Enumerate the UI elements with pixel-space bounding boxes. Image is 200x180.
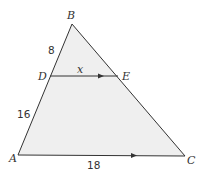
segment-label-bd: 8: [48, 44, 55, 56]
triangle-abc-fill: [18, 24, 185, 156]
segment-label-da: 16: [17, 108, 31, 120]
vertex-label-b: B: [66, 9, 75, 22]
vertex-label-d: D: [37, 70, 47, 83]
triangle-diagram: B D E A C 8 16 x 18: [0, 0, 200, 180]
segment-label-de: x: [77, 63, 84, 76]
segment-label-ac: 18: [87, 159, 100, 171]
vertex-label-c: C: [187, 154, 196, 167]
vertex-label-e: E: [121, 70, 130, 83]
vertex-label-a: A: [8, 152, 17, 165]
